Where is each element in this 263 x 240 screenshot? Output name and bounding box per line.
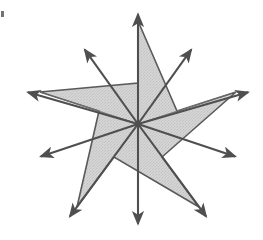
scan-speck-artifact	[1, 11, 4, 17]
center-point	[136, 122, 140, 126]
radiating-arrows	[28, 14, 248, 224]
star-with-arrows-diagram	[0, 0, 263, 240]
figure-canvas	[0, 0, 263, 240]
